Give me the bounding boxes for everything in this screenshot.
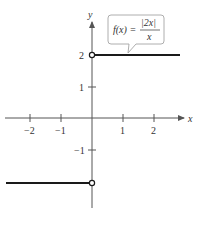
- open-endpoint: [89, 180, 94, 185]
- y-tick-label: 2: [79, 50, 84, 61]
- y-tick-label: 1: [79, 82, 84, 93]
- x-tick-label: −2: [24, 125, 35, 136]
- x-tick-label: 2: [151, 125, 156, 136]
- function-denominator: x: [146, 31, 152, 42]
- y-tick-label: −1: [74, 145, 85, 156]
- open-endpoint: [89, 52, 94, 57]
- x-axis-label: x: [187, 113, 193, 124]
- x-tick-label: 1: [120, 125, 125, 136]
- function-graph: x y −2 −1 1 2 2 1 −1 f(x) = |2x| x: [0, 0, 201, 227]
- function-numerator: |2x|: [141, 17, 156, 28]
- y-axis-label: y: [87, 9, 93, 20]
- function-callout: f(x) = |2x| x: [108, 15, 164, 53]
- function-lhs: f(x) =: [113, 24, 136, 36]
- x-tick-label: −1: [55, 125, 66, 136]
